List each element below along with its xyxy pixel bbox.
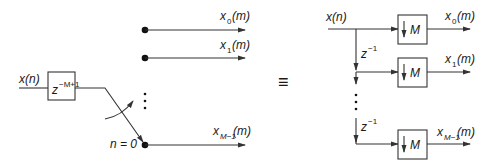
commutator-switch-arm	[75, 88, 143, 142]
left-output-label-1: x 1 (m)	[219, 38, 250, 55]
svg-text:x: x	[444, 9, 452, 23]
left-output-label-0: x 0 (m)	[219, 9, 250, 26]
ellipsis-dot	[355, 108, 358, 111]
svg-text:M: M	[410, 23, 420, 37]
svg-text:x: x	[219, 38, 227, 52]
rotation-arrow-icon	[105, 101, 133, 119]
ellipsis-dot	[144, 93, 147, 96]
right-output-label-m-1: x M−1 (m)	[436, 125, 475, 142]
svg-text:z: z	[360, 120, 367, 134]
svg-text:(m): (m)	[457, 125, 475, 139]
left-input-label: x(n)	[18, 72, 40, 86]
svg-text:(m): (m)	[457, 52, 475, 66]
svg-text:z: z	[360, 47, 367, 61]
svg-text:(m): (m)	[233, 124, 251, 138]
ellipsis-dot	[144, 107, 147, 110]
equivalence-symbol: ≡	[278, 72, 289, 92]
delay-label-2: z −1	[360, 117, 378, 134]
polyphase-decomposition-diagram: x(n) z −M+1 n = 0 x 0 (m) x 1 (m)	[0, 0, 489, 167]
delay-block-base: z	[51, 83, 58, 97]
left-output-label-m-1: x M−1 (m)	[212, 124, 251, 141]
svg-text:M: M	[410, 138, 420, 152]
svg-text:x: x	[219, 9, 227, 23]
ellipsis-dot	[355, 101, 358, 104]
svg-text:−1: −1	[368, 44, 378, 53]
svg-text:x: x	[444, 52, 452, 66]
svg-text:(m): (m)	[232, 9, 250, 23]
svg-text:x: x	[212, 124, 220, 138]
right-output-label-0: x 0 (m)	[444, 9, 475, 26]
right-output-label-1: x 1 (m)	[444, 52, 475, 69]
svg-text:(m): (m)	[232, 38, 250, 52]
decimator-block-0: M	[398, 15, 427, 44]
right-polyphase-diagram: x(n) z −1 z −1 M M	[325, 9, 475, 159]
svg-text:(m): (m)	[457, 9, 475, 23]
right-input-label: x(n)	[325, 10, 347, 24]
svg-text:M: M	[410, 66, 420, 80]
decimator-block-m-1: M	[398, 130, 427, 159]
decimator-block-1: M	[398, 58, 427, 87]
svg-text:x: x	[436, 125, 444, 139]
delay-label-1: z −1	[360, 44, 378, 61]
delay-block: z −M+1	[48, 72, 80, 100]
ellipsis-dot	[144, 100, 147, 103]
ellipsis-dot	[355, 94, 358, 97]
left-commutator-diagram: x(n) z −M+1 n = 0 x 0 (m) x 1 (m)	[18, 9, 251, 151]
svg-text:−1: −1	[368, 117, 378, 126]
switch-time-label: n = 0	[110, 137, 137, 151]
